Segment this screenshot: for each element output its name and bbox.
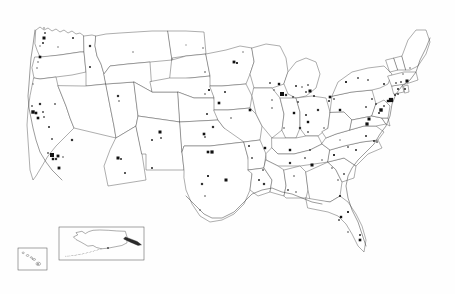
aleutian-island-19 bbox=[75, 255, 76, 256]
city-dot-washington-dc bbox=[365, 122, 368, 125]
city-dot-ann-arbor bbox=[305, 91, 307, 93]
city-dot-trenton bbox=[383, 105, 385, 107]
city-dot-bismarck bbox=[186, 45, 187, 46]
aleutian-island-3 bbox=[97, 250, 98, 251]
city-dot-denver bbox=[159, 131, 162, 134]
city-dot-coeur-dalene bbox=[89, 45, 91, 47]
city-dot-kansas-city bbox=[218, 102, 221, 105]
city-dot-salem bbox=[37, 61, 38, 62]
city-dot-manchester-nh bbox=[402, 73, 403, 74]
city-dot-redding bbox=[32, 83, 33, 84]
city-dot-long-beach bbox=[52, 158, 54, 160]
city-dot-bellingham bbox=[43, 27, 44, 28]
city-dot-fort-wayne bbox=[297, 101, 299, 103]
city-dot-charleston-wv bbox=[323, 127, 324, 128]
aleutian-island-12 bbox=[85, 253, 86, 254]
city-dot-greenville-sc bbox=[321, 159, 322, 160]
city-dot-minneapolis bbox=[233, 61, 236, 64]
hawaii-island-lanai bbox=[32, 259, 33, 260]
hawaii-island-oahu bbox=[26, 255, 29, 257]
aleutian-island-5 bbox=[94, 250, 95, 251]
city-dot-little-rock bbox=[248, 145, 250, 147]
city-dot-milwaukee bbox=[278, 83, 280, 85]
city-dot-springfield-mo bbox=[230, 117, 231, 118]
city-dot-portland bbox=[39, 56, 42, 59]
city-dot-tulsa bbox=[212, 126, 214, 128]
hawaii-island-maui bbox=[33, 259, 36, 261]
city-dot-houston bbox=[225, 179, 228, 182]
city-dot-new-haven bbox=[397, 93, 399, 95]
city-dot-mcallen bbox=[199, 209, 200, 210]
city-dot-lincoln bbox=[204, 93, 205, 94]
city-dot-mesa bbox=[120, 158, 122, 160]
city-dot-seattle bbox=[43, 37, 46, 40]
city-dot-san-jose bbox=[37, 117, 40, 120]
city-dot-st-louis bbox=[249, 109, 252, 112]
city-dot-atlanta bbox=[311, 164, 314, 167]
city-dot-lansing bbox=[301, 86, 302, 87]
aleutian-island-13 bbox=[83, 253, 84, 254]
city-dot-greensboro bbox=[347, 146, 349, 148]
city-dot-chattanooga bbox=[304, 157, 306, 159]
aleutian-island-20 bbox=[74, 255, 75, 256]
city-dot-wilmington-de bbox=[378, 112, 380, 114]
city-dot-oklahoma-city bbox=[203, 133, 206, 136]
city-dot-omaha bbox=[208, 89, 210, 91]
city-dot-st-paul bbox=[236, 62, 238, 64]
city-dot-norman bbox=[204, 136, 206, 138]
aleutian-island-7 bbox=[92, 251, 93, 252]
aleutian-island-16 bbox=[79, 254, 80, 255]
city-dot-san-diego bbox=[58, 167, 61, 170]
city-dot-corpus-christi bbox=[204, 195, 205, 196]
city-dot-detroit bbox=[309, 90, 312, 93]
aleutian-island-24 bbox=[68, 256, 69, 257]
city-dot-albuquerque bbox=[151, 139, 153, 141]
city-dot-tampa bbox=[340, 216, 342, 218]
city-dot-stockton bbox=[42, 111, 44, 113]
city-dot-columbus bbox=[317, 109, 319, 111]
city-dot-buffalo bbox=[345, 81, 347, 83]
city-dot-los-angeles bbox=[50, 153, 54, 157]
city-dot-billings bbox=[132, 51, 133, 52]
city-dot-roanoke bbox=[339, 139, 340, 140]
city-dot-wichita bbox=[206, 113, 208, 115]
city-dot-jackson bbox=[262, 169, 264, 171]
aleutian-island-8 bbox=[90, 252, 91, 253]
city-dot-santa-rosa bbox=[31, 105, 33, 107]
city-dot-duluth bbox=[242, 51, 243, 52]
city-dot-baton-rouge bbox=[258, 179, 260, 181]
aleutian-island-21 bbox=[72, 255, 73, 256]
city-dot-indianapolis bbox=[293, 112, 295, 114]
city-dot-fort-worth bbox=[207, 151, 210, 154]
city-dot-worcester bbox=[400, 81, 402, 83]
city-dot-portland-me bbox=[409, 67, 410, 68]
aleutian-island-15 bbox=[81, 254, 82, 255]
city-dot-bridgeport bbox=[394, 94, 396, 96]
city-dot-fresno bbox=[48, 126, 50, 128]
city-dot-modesto bbox=[43, 116, 45, 118]
city-dot-reno bbox=[54, 103, 56, 105]
city-dot-richmond bbox=[365, 135, 367, 137]
city-dot-flint bbox=[307, 84, 309, 86]
city-dot-new-orleans bbox=[263, 183, 265, 185]
city-dot-san-antonio bbox=[201, 183, 203, 185]
city-dot-jacksonville bbox=[339, 195, 341, 197]
city-dot-hartford bbox=[397, 88, 399, 90]
city-dot-louisville bbox=[299, 127, 301, 129]
aleutian-island-4 bbox=[96, 250, 97, 251]
city-dot-phoenix bbox=[117, 157, 120, 160]
city-dot-savannah bbox=[337, 179, 338, 180]
city-dot-boston bbox=[406, 80, 409, 83]
city-dot-pensacola bbox=[295, 191, 296, 192]
city-dot-san-francisco bbox=[31, 110, 34, 113]
city-dot-fargo bbox=[202, 47, 203, 48]
city-dot-rockford bbox=[273, 89, 274, 90]
city-dot-cleveland bbox=[329, 96, 332, 99]
city-dot-birmingham bbox=[289, 162, 291, 164]
city-dot-olympia bbox=[39, 45, 40, 46]
city-dot-st-petersburg bbox=[338, 219, 340, 221]
city-dot-knoxville bbox=[309, 149, 311, 151]
city-dot-cincinnati bbox=[307, 121, 309, 123]
city-dot-dayton bbox=[305, 114, 307, 116]
city-dot-sioux-falls bbox=[204, 71, 205, 72]
